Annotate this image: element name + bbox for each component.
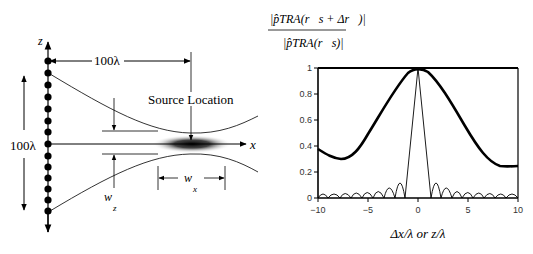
svg-text:0.6: 0.6 [299, 115, 312, 125]
source-location-label: Source Location [148, 92, 234, 107]
svg-text:0.4: 0.4 [299, 141, 312, 151]
y-axis-label-denominator: |p̂TRA(r⃗s)| [283, 36, 344, 50]
svg-text:5: 5 [465, 205, 470, 215]
width-z-label: w [104, 190, 112, 204]
x-axis-label: x [249, 137, 256, 152]
array-length-label: 100λ [10, 138, 37, 153]
svg-text:0.2: 0.2 [299, 167, 312, 177]
resolution-plot: |p̂TRA(r⃗s + Δr⃗)| |p̂TRA(r⃗s)| 0 0.2 0.… [260, 0, 533, 254]
x-tick-labels: −10 −5 0 5 10 [310, 205, 523, 215]
svg-text:1: 1 [307, 63, 312, 73]
y-tick-labels: 0 0.2 0.4 0.6 0.8 1 [299, 63, 312, 203]
x-axis-label: Δx/λ or z/λ [389, 226, 445, 241]
svg-text:x: x [192, 184, 197, 194]
svg-text:0: 0 [307, 193, 312, 203]
svg-text:−5: −5 [363, 205, 373, 215]
y-axis-label-numerator: |p̂TRA(r⃗s + Δr⃗)| [270, 12, 366, 26]
source-geometry-diagram: z 100λ 100λ x Source Location w z w x [0, 0, 270, 254]
svg-text:z: z [112, 203, 117, 213]
svg-text:0.8: 0.8 [299, 89, 312, 99]
svg-text:0: 0 [415, 205, 420, 215]
series-thick-curve [318, 69, 518, 166]
beam-envelope-lower [50, 154, 258, 211]
z-axis-label: z [37, 34, 43, 48]
series-thin-curve [318, 68, 518, 198]
svg-text:10: 10 [513, 205, 523, 215]
distance-label: 100λ [94, 53, 121, 68]
svg-text:−10: −10 [310, 205, 325, 215]
width-x-label: w [184, 171, 192, 185]
